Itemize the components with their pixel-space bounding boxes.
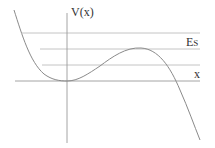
energy-es-label: ES xyxy=(186,36,198,48)
potential-curve xyxy=(14,10,200,140)
potential-diagram: V(x) ES x xyxy=(0,0,215,148)
energy-es-subscript: S xyxy=(193,38,198,48)
x-axis-label: x xyxy=(194,68,200,80)
y-axis-label: V(x) xyxy=(71,6,94,18)
diagram-canvas xyxy=(0,0,215,148)
